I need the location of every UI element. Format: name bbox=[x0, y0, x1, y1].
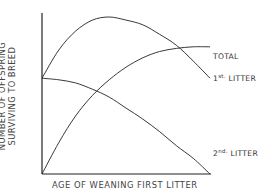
y-axis-label: NUMBER OF OFFSPRING SURVIVING TO BREED bbox=[0, 42, 17, 150]
y-axis-label-line1: NUMBER OF OFFSPRING bbox=[0, 42, 7, 150]
legend-first-text: LITTER bbox=[226, 74, 256, 83]
legend-second-text: LITTER bbox=[228, 149, 258, 158]
legend-first-sup: st. bbox=[218, 73, 226, 79]
legend-total: TOTAL bbox=[213, 52, 239, 61]
legend-total-text: TOTAL bbox=[213, 52, 239, 61]
legend-second-sup: nd. bbox=[218, 148, 228, 154]
legend-first-litter: 1st. LITTER bbox=[213, 73, 256, 83]
chart-plot bbox=[0, 0, 276, 196]
legend-second-litter: 2nd. LITTER bbox=[213, 148, 258, 158]
y-axis-label-line2: SURVIVING TO BREED bbox=[7, 42, 17, 150]
x-axis-label: AGE OF WEANING FIRST LITTER bbox=[52, 180, 198, 190]
series-first-litter-line bbox=[42, 47, 210, 174]
series-second-litter-line bbox=[42, 78, 210, 174]
